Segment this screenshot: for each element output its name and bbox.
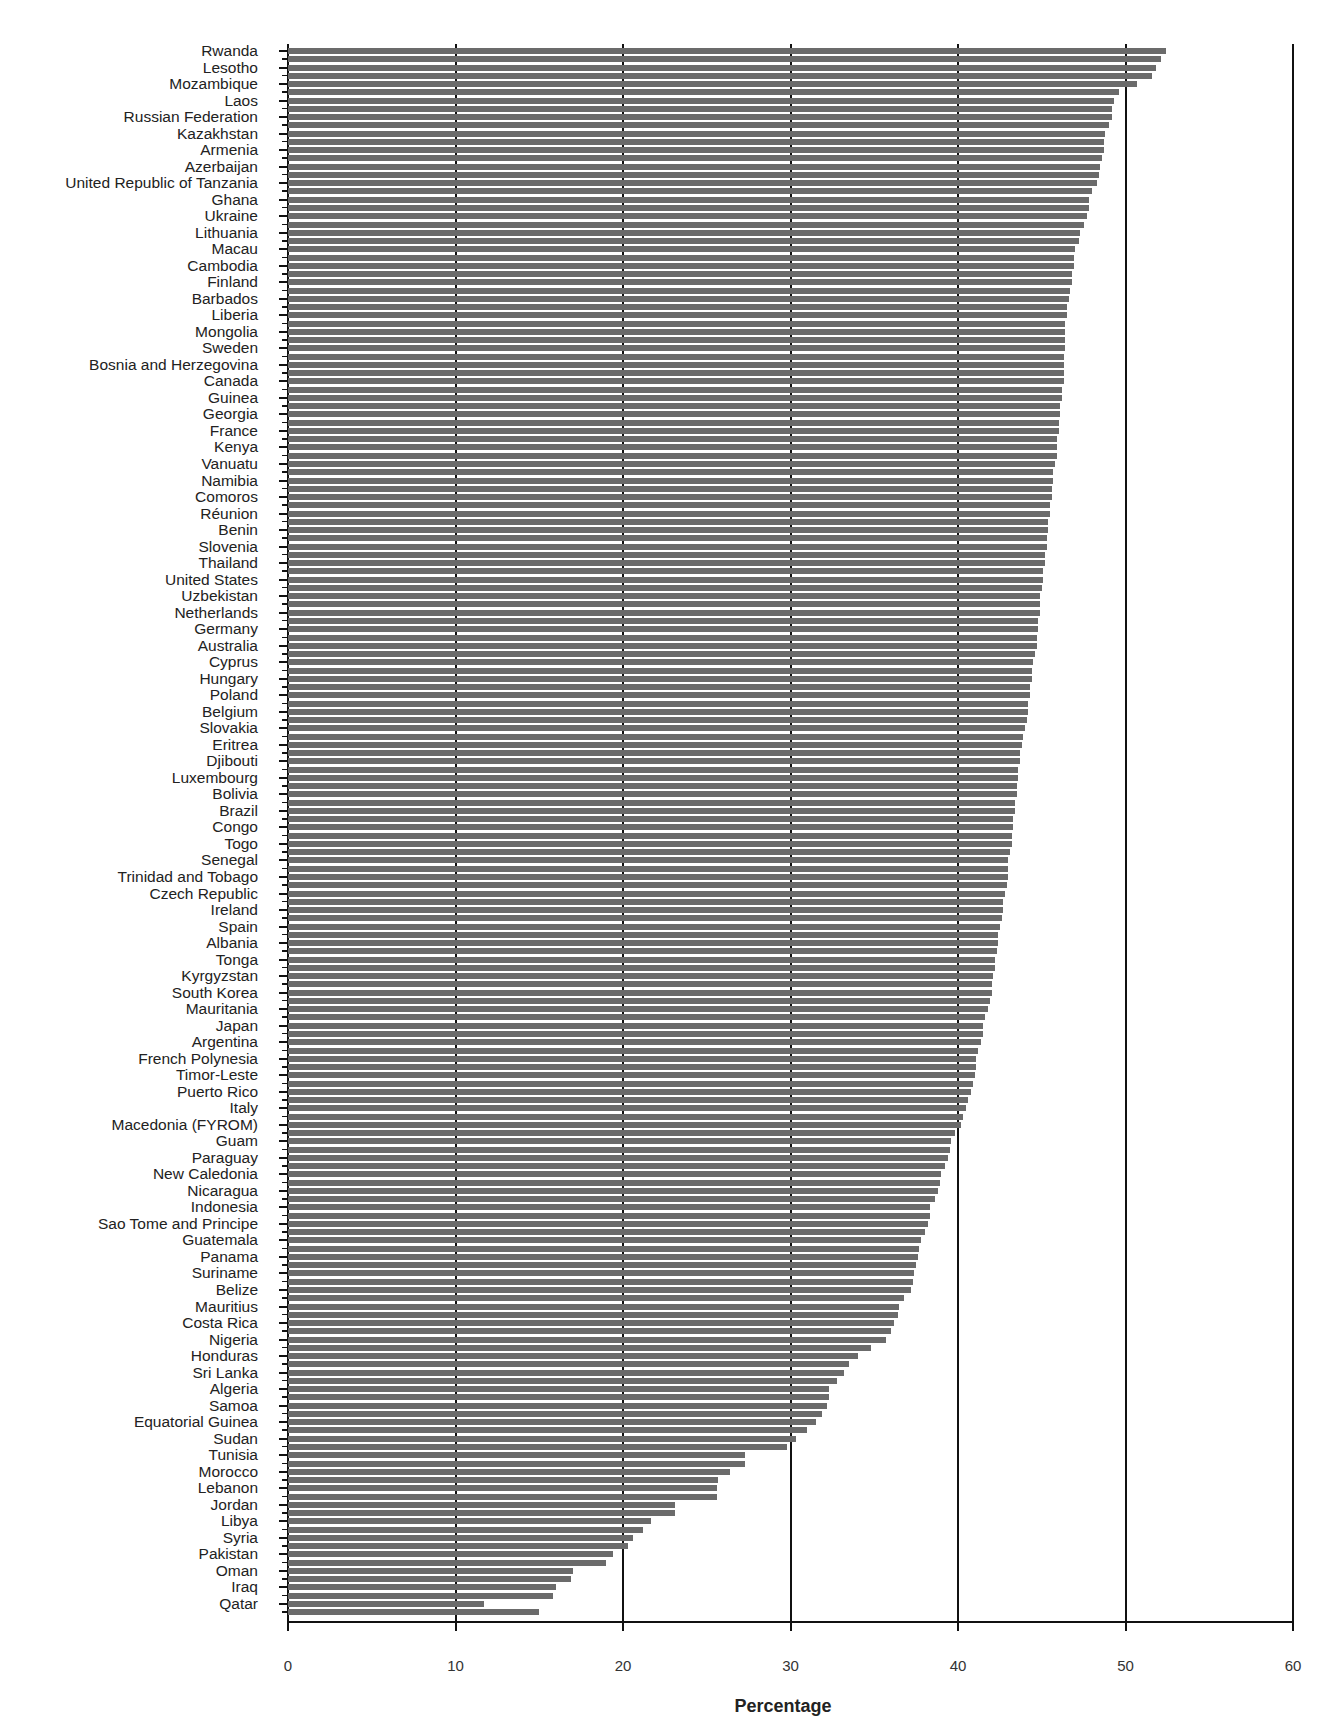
- bar: [288, 1064, 976, 1070]
- category-label: Australia: [198, 638, 258, 654]
- y-tick: [279, 1570, 288, 1572]
- bar: [288, 1221, 928, 1227]
- y-tick-minor: [282, 91, 288, 93]
- y-tick: [279, 1041, 288, 1043]
- x-axis-title: Percentage: [734, 1696, 831, 1717]
- bar: [288, 585, 1042, 591]
- bar: [288, 1593, 553, 1599]
- y-tick-minor: [282, 1380, 288, 1382]
- y-tick-minor: [282, 323, 288, 325]
- category-label: Senegal: [201, 852, 258, 868]
- y-tick: [279, 1107, 288, 1109]
- category-label: Azerbaijan: [185, 159, 258, 175]
- y-tick-minor: [282, 1396, 288, 1398]
- bar: [288, 800, 1015, 806]
- bar: [288, 742, 1022, 748]
- category-label: Mongolia: [195, 324, 258, 340]
- bar: [288, 502, 1050, 508]
- bar: [288, 709, 1028, 715]
- bar: [288, 915, 1002, 921]
- bar: [288, 816, 1013, 822]
- y-tick: [279, 1289, 288, 1291]
- x-tick-label: 50: [1117, 1657, 1134, 1674]
- bar: [288, 1469, 730, 1475]
- bar: [288, 1279, 913, 1285]
- y-tick: [279, 1223, 288, 1225]
- y-tick: [279, 1520, 288, 1522]
- gridline-60: [1292, 44, 1294, 1623]
- bar: [288, 857, 1008, 863]
- bar: [288, 65, 1156, 71]
- bar: [288, 643, 1037, 649]
- y-tick: [279, 1190, 288, 1192]
- y-tick-minor: [282, 190, 288, 192]
- category-label: Trinidad and Tobago: [118, 869, 258, 885]
- y-tick: [279, 149, 288, 151]
- y-tick: [279, 463, 288, 465]
- category-label: Liberia: [211, 307, 258, 323]
- category-label: Italy: [230, 1100, 258, 1116]
- bar: [288, 420, 1059, 426]
- bar: [288, 1163, 945, 1169]
- y-tick-minor: [282, 802, 288, 804]
- category-label: Timor-Leste: [176, 1067, 258, 1083]
- bar: [288, 1378, 837, 1384]
- y-tick-minor: [282, 521, 288, 523]
- category-label: Ireland: [211, 902, 258, 918]
- category-label: Ukraine: [205, 208, 258, 224]
- y-tick: [279, 926, 288, 928]
- category-label: Slovenia: [199, 539, 258, 555]
- bar: [288, 1204, 930, 1210]
- category-label: Russian Federation: [124, 109, 258, 125]
- category-label: Laos: [224, 93, 258, 109]
- bar: [288, 1427, 807, 1433]
- bar: [288, 345, 1065, 351]
- bar: [288, 717, 1027, 723]
- category-label: Finland: [207, 274, 258, 290]
- category-label: Czech Republic: [149, 886, 258, 902]
- category-label: Guatemala: [182, 1232, 258, 1248]
- category-label: Comoros: [195, 489, 258, 505]
- x-tick: [1125, 1621, 1127, 1631]
- bar: [288, 461, 1055, 467]
- y-tick: [279, 1372, 288, 1374]
- y-tick: [279, 909, 288, 911]
- y-tick-minor: [282, 1149, 288, 1151]
- bar: [288, 973, 993, 979]
- bar: [288, 246, 1075, 252]
- y-tick: [279, 413, 288, 415]
- y-tick: [279, 992, 288, 994]
- category-label: Lesotho: [203, 60, 258, 76]
- y-tick-minor: [282, 620, 288, 622]
- bar: [288, 990, 992, 996]
- y-tick: [279, 1438, 288, 1440]
- y-tick: [279, 480, 288, 482]
- y-tick-minor: [282, 1132, 288, 1134]
- category-label: Uzbekistan: [181, 588, 258, 604]
- bar: [288, 560, 1045, 566]
- bar: [288, 1568, 573, 1574]
- bar: [288, 1180, 940, 1186]
- y-tick-minor: [282, 240, 288, 242]
- gridline-50: [1125, 44, 1127, 1623]
- bar: [288, 750, 1020, 756]
- bar: [288, 684, 1030, 690]
- y-tick-minor: [282, 752, 288, 754]
- y-tick: [279, 116, 288, 118]
- bar: [288, 1270, 914, 1276]
- bar: [288, 1254, 918, 1260]
- bar: [288, 791, 1017, 797]
- category-label: Mauritania: [186, 1001, 258, 1017]
- y-tick: [279, 1091, 288, 1093]
- y-tick-minor: [282, 1066, 288, 1068]
- bar: [288, 1287, 911, 1293]
- bar: [288, 395, 1062, 401]
- category-label: Guinea: [208, 390, 258, 406]
- bar: [288, 1560, 606, 1566]
- bar: [288, 552, 1045, 558]
- y-tick-minor: [282, 1545, 288, 1547]
- y-tick-minor: [282, 75, 288, 77]
- x-tick: [622, 1621, 624, 1631]
- y-tick: [279, 397, 288, 399]
- y-tick-minor: [282, 141, 288, 143]
